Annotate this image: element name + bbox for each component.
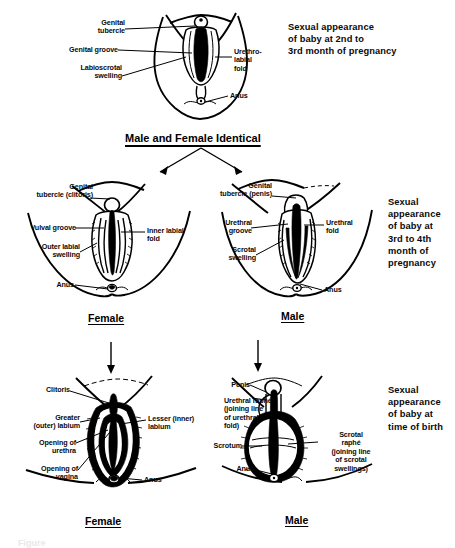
female-3to4-genitalia [92, 198, 132, 292]
label-outer-labial-swelling: Outer labial swelling [8, 243, 80, 260]
figure-canvas: Genital tubercle Genital groove Labioscr… [0, 0, 455, 548]
figure-caption: Figure [18, 538, 46, 548]
label-anus: Anus [230, 92, 266, 100]
label-penis: Penis [214, 381, 250, 389]
stage-2-description: Sexual appearance of baby at 3rd to 4th … [388, 196, 455, 269]
label-anus-female-3to4: Anus [44, 281, 74, 289]
sex-label-female-birth: Female [85, 515, 121, 527]
label-genital-tubercle-clitoris: Genital tubercle (clitoris) [8, 183, 93, 200]
label-anus-male-birth: Anus [222, 465, 254, 473]
stage-1-description: Sexual appearance of baby at 2nd to 3rd … [288, 21, 448, 58]
progression-arrows [107, 340, 262, 374]
sex-label-female-3to4: Female [88, 312, 124, 324]
label-anus-female-birth: Anus [144, 476, 174, 484]
sex-label-male-3to4: Male [281, 310, 304, 322]
indifferent-genitalia [183, 16, 219, 104]
male-female-identical-heading: Male and Female Identical [125, 132, 261, 145]
label-urethro-labial-fold: Urethro- labial fold [234, 48, 278, 73]
label-vulval-groove: Vulval groove [6, 224, 76, 232]
label-greater-outer-labium: Greater (outer) labium [8, 414, 80, 431]
sex-label-male-birth: Male [285, 514, 308, 526]
label-urethral-fold: Urethral fold [326, 219, 370, 236]
label-scrotum: Scrotum [196, 442, 242, 450]
label-scrotal-swelling: Scrotal swelling [196, 246, 256, 263]
label-genital-groove: Genital groove [36, 46, 118, 54]
label-urethral-raphe: Urethral raphé (joining line of urethral… [224, 397, 282, 431]
label-clitoris: Clitoris [26, 386, 70, 394]
label-urethral-groove: Urethral groove [196, 219, 252, 236]
female-birth-genitalia [86, 394, 142, 487]
branch-arrows [160, 148, 242, 175]
label-opening-of-vagina: Opening of vagina [14, 465, 78, 482]
label-genital-tubercle: Genital tubercle [47, 19, 125, 36]
label-anus-male-3to4: Anus [324, 286, 354, 294]
label-labioscrotal-swelling: Labioscrotal swelling [42, 64, 122, 81]
label-lesser-inner-labium: Lesser (inner) labium [148, 415, 214, 432]
male-3to4-genitalia [278, 195, 315, 291]
label-opening-of-urethra: Opening of urethra [12, 439, 76, 456]
label-genital-tubercle-penis: Genital tubercle (penis) [188, 182, 272, 199]
label-scrotal-raphe: Scrotal raphé (joining line of scrotal s… [320, 431, 382, 473]
stage-3-description: Sexual appearance of baby at time of bir… [388, 384, 455, 433]
